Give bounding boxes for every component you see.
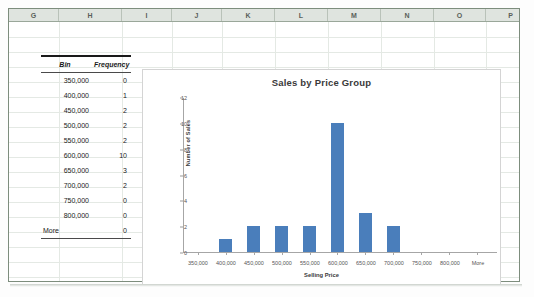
frequency-table: Bin Frequency 350,0000400,0001450,000250… [41,55,131,239]
cell-bin: 500,000 [41,118,94,133]
table-header-row: Bin Frequency [41,57,131,72]
frame-shadow [10,284,522,287]
column-header-P[interactable]: P [486,9,534,21]
cell-frequency: 0 [94,73,131,88]
bar[interactable] [219,239,232,252]
plot-area: 024681012 [183,98,491,253]
table-row[interactable]: 500,0002 [41,118,131,133]
x-axis-tick-label: 450,000 [240,260,268,266]
cell-bin: 350,000 [41,73,94,88]
x-axis-tick-mark [310,252,311,255]
x-axis-tick-mark [365,252,366,255]
worksheet-frame: GHIJKLMNOPQRSTUVW Bin Frequency 350,0000… [8,8,520,282]
y-axis-tick-mark [180,201,183,202]
table-body: 350,0000400,0001450,0002500,0002550,0002… [41,73,131,238]
cell-frequency: 3 [94,163,131,178]
bar[interactable] [247,226,260,252]
bar[interactable] [359,213,372,252]
x-axis-labels: 350,000400,000450,000500,000550,000600,0… [184,260,492,266]
spreadsheet-screenshot: GHIJKLMNOPQRSTUVW Bin Frequency 350,0000… [0,0,534,297]
x-axis-tick-label: More [464,260,492,266]
cell-bin: 600,000 [41,148,94,163]
column-header-bin: Bin [41,57,94,72]
x-axis-tick-label: 550,000 [296,260,324,266]
table-row[interactable]: More0 [41,223,131,238]
x-axis-tick-mark [421,252,422,255]
grid-row-line [9,37,519,38]
chart-panel[interactable]: Sales by Price Group Number of Sales 024… [142,69,501,287]
table-row[interactable]: 750,0000 [41,193,131,208]
cell-frequency: 2 [94,118,131,133]
cell-bin: More [41,223,96,238]
y-axis-tick-mark [180,98,183,99]
x-axis-tick-mark [282,252,283,255]
y-axis-tick-mark [180,253,183,254]
column-header-frequency: Frequency [94,57,133,72]
cell-bin: 800,000 [41,208,94,223]
cell-frequency: 2 [94,133,131,148]
cell-frequency: 0 [96,223,131,238]
x-axis-tick-label: 400,000 [212,260,240,266]
table-row[interactable]: 800,0000 [41,208,131,223]
x-axis-tick-label: 700,000 [380,260,408,266]
bar[interactable] [331,123,344,252]
bar-slot [268,98,296,252]
cell-bin: 400,000 [41,88,94,103]
bar-slot [184,98,212,252]
bar-slot [324,98,352,252]
column-header-N[interactable]: N [381,9,434,21]
table-row[interactable]: 600,00010 [41,148,131,163]
cell-bin: 550,000 [41,133,94,148]
grid-row-line [9,52,519,53]
y-axis-tick-mark [180,175,183,176]
column-header-G[interactable]: G [9,9,59,21]
table-bottom-rule [41,238,131,239]
bar-slot [212,98,240,252]
x-axis-tick-mark [198,252,199,255]
x-axis-tick-label: 750,000 [408,260,436,266]
x-axis-tick-label: 350,000 [184,260,212,266]
x-axis-tick-mark [254,252,255,255]
column-header-L[interactable]: L [275,9,328,21]
cell-frequency: 0 [94,208,131,223]
column-header-K[interactable]: K [222,9,275,21]
bar[interactable] [303,226,316,252]
table-row[interactable]: 400,0001 [41,88,131,103]
bar[interactable] [275,226,288,252]
cell-frequency: 2 [94,178,131,193]
y-axis-tick-mark [180,227,183,228]
cell-bin: 700,000 [41,178,94,193]
table-row[interactable]: 350,0000 [41,73,131,88]
x-axis-tick-label: 800,000 [436,260,464,266]
y-axis-tick-mark [180,149,183,150]
bar-series [184,98,491,252]
table-row[interactable]: 550,0002 [41,133,131,148]
cell-bin: 650,000 [41,163,94,178]
x-axis-tick-mark [477,252,478,255]
column-header-M[interactable]: M [328,9,381,21]
x-axis-tick-mark [226,252,227,255]
x-axis-tick-mark [337,252,338,255]
x-axis-title: Selling Price [143,272,500,278]
cell-bin: 750,000 [41,193,94,208]
cell-frequency: 0 [94,193,131,208]
bar-slot [407,98,435,252]
bar-slot [351,98,379,252]
x-axis-tick-mark [449,252,450,255]
column-header-I[interactable]: I [122,9,172,21]
column-header-J[interactable]: J [172,9,222,21]
table-row[interactable]: 450,0002 [41,103,131,118]
table-row[interactable]: 700,0002 [41,178,131,193]
bar-slot [379,98,407,252]
chart-title: Sales by Price Group [143,77,500,88]
bar-slot [463,98,491,252]
column-header-O[interactable]: O [434,9,486,21]
x-axis-tick-label: 500,000 [268,260,296,266]
column-header-H[interactable]: H [59,9,122,21]
table-row[interactable]: 650,0003 [41,163,131,178]
cell-frequency: 10 [94,148,131,163]
bar[interactable] [387,226,400,252]
bar-slot [296,98,324,252]
cell-bin: 450,000 [41,103,94,118]
bar-slot [435,98,463,252]
